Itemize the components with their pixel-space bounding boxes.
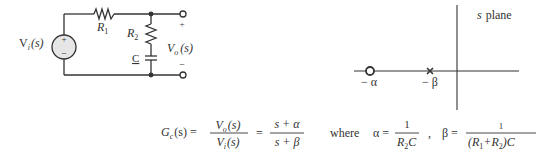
source-label: Vi(s) bbox=[19, 36, 44, 52]
source-plus-sign: + bbox=[61, 34, 66, 44]
output-minus-sign: − bbox=[179, 59, 185, 70]
frac2-denominator: s + β bbox=[275, 135, 300, 149]
output-terminal-minus bbox=[180, 72, 186, 78]
circuit bbox=[52, 9, 186, 78]
source-minus-sign: − bbox=[61, 48, 67, 59]
zero-label: − α bbox=[361, 75, 378, 89]
beta-numerator: 1 bbox=[499, 121, 504, 131]
frac1-denominator: Vi(s) bbox=[216, 135, 239, 151]
where-text: where bbox=[330, 126, 359, 140]
equals-sign: = bbox=[256, 126, 263, 140]
junction-top bbox=[149, 12, 153, 16]
zero-marker bbox=[366, 67, 374, 75]
beta-denominator: (R1+R2)C bbox=[468, 135, 516, 151]
frac1-numerator: Vo(s) bbox=[215, 118, 240, 134]
transfer-function-formula: Gc(s) = Vo(s) Vi(s) = s + α s + β where … bbox=[161, 117, 536, 151]
junction-bottom bbox=[149, 73, 153, 77]
output-plus-sign: + bbox=[179, 19, 184, 29]
pole-label: − β bbox=[422, 75, 438, 89]
r1-label: R1 bbox=[96, 20, 108, 36]
c-label: C bbox=[132, 52, 139, 64]
alpha-numerator: 1 bbox=[404, 118, 410, 130]
formula-lhs: Gc(s) = bbox=[161, 125, 197, 141]
output-terminal-plus bbox=[180, 11, 186, 17]
s-plane-title: splane bbox=[477, 8, 512, 22]
output-label: Vo(s) bbox=[167, 41, 193, 57]
beta-equals: β = bbox=[442, 126, 458, 140]
comma: , bbox=[428, 126, 431, 140]
resistor-r1 bbox=[94, 9, 114, 19]
r2-label: R2 bbox=[126, 26, 138, 42]
diagram-canvas: + − Vi(s) R1 R2 C + − Vo(s) splane − α −… bbox=[0, 0, 540, 155]
frac2-numerator: s + α bbox=[274, 117, 300, 131]
resistor-r2 bbox=[146, 24, 156, 44]
alpha-denominator: R2C bbox=[396, 135, 417, 151]
alpha-equals: α = bbox=[373, 126, 389, 140]
